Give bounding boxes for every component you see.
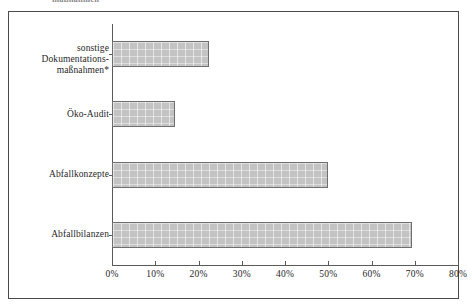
value-axis-tick xyxy=(458,261,459,266)
value-axis-tick-label: 0% xyxy=(92,269,132,279)
category-label: Abfallkonzepte xyxy=(49,169,109,180)
figure-frame: 0%10%20%30%40%50%60%70%80% Abfallbilanze… xyxy=(8,11,459,299)
value-axis-tick-label: 50% xyxy=(308,269,348,279)
value-axis-tick-label: 20% xyxy=(179,269,219,279)
value-axis-tick-label: 10% xyxy=(135,269,175,279)
category-label: sonstige Dokumentations- maßnahmen* xyxy=(9,43,109,76)
value-axis-tick xyxy=(242,261,243,266)
value-axis-tick-label: 80% xyxy=(438,269,472,279)
bar xyxy=(112,222,412,248)
value-axis-tick xyxy=(112,261,113,266)
bar xyxy=(112,41,209,67)
value-axis-tick-label: 60% xyxy=(352,269,392,279)
value-axis-tick xyxy=(155,261,156,266)
cropped-caption-strip: maßnahmen xyxy=(0,0,467,9)
value-axis-tick xyxy=(372,261,373,266)
category-label: Öko-Audit xyxy=(67,109,109,120)
bar-chart-plot-area: 0%10%20%30%40%50%60%70%80% Abfallbilanze… xyxy=(9,12,458,298)
value-axis-tick-label: 70% xyxy=(395,269,435,279)
bar xyxy=(112,162,328,188)
cropped-caption-text: maßnahmen xyxy=(52,0,99,4)
value-axis-tick xyxy=(415,261,416,266)
value-axis-tick xyxy=(199,261,200,266)
value-axis-tick xyxy=(328,261,329,266)
value-axis-tick-label: 40% xyxy=(265,269,305,279)
category-label: Abfallbilanzen xyxy=(51,229,109,240)
value-axis-tick-label: 30% xyxy=(222,269,262,279)
value-axis-tick xyxy=(285,261,286,266)
bar xyxy=(112,101,175,127)
